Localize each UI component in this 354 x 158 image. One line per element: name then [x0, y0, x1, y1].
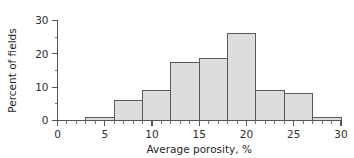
histogram-bar: [284, 94, 312, 121]
histogram-bar: [143, 91, 171, 121]
x-tick-label: 0: [54, 128, 61, 140]
y-tick-label: 30: [35, 14, 48, 26]
x-tick-label: 5: [101, 128, 108, 140]
y-tick-label: 0: [42, 114, 49, 126]
x-axis-title: Average porosity, %: [147, 143, 252, 155]
histogram-bar: [256, 91, 284, 121]
histogram-bar: [114, 101, 142, 121]
histogram-bar: [199, 59, 227, 121]
y-axis-title: Percent of fields: [6, 28, 18, 112]
x-tick-label: 10: [145, 128, 158, 140]
histogram-figure: 051015202530 0102030 Average porosity, %…: [0, 0, 354, 158]
x-tick-label: 30: [334, 128, 347, 140]
x-tick-label: 20: [240, 128, 253, 140]
histogram-bar: [228, 34, 256, 121]
y-tick-label: 10: [35, 81, 48, 93]
y-tick-label: 20: [35, 48, 48, 60]
chart-canvas: 051015202530 0102030 Average porosity, %…: [0, 0, 354, 158]
x-tick-label: 25: [287, 128, 300, 140]
histogram-bar: [171, 62, 199, 120]
x-tick-label: 15: [193, 128, 206, 140]
